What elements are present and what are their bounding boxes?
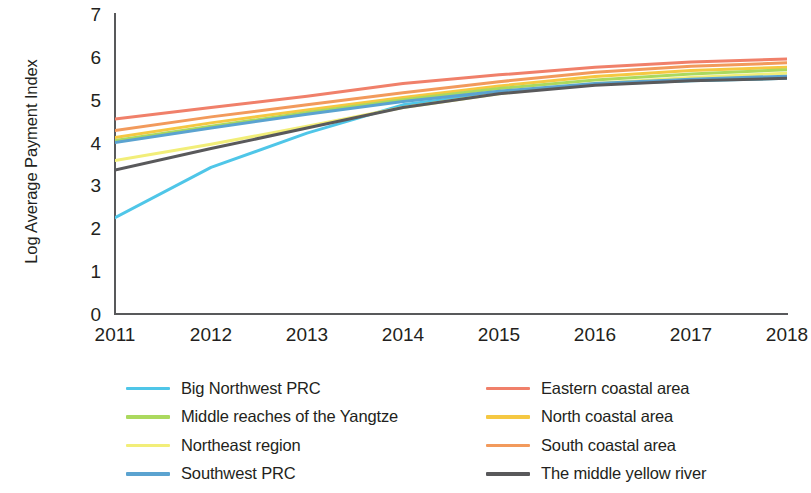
x-axis-tick-label: 2012 <box>166 325 256 344</box>
legend-item-label: North coastal area <box>541 407 673 426</box>
x-axis-tick-label: 2018 <box>742 325 811 344</box>
chart-legend: Big Northwest PRCMiddle reaches of the Y… <box>118 374 808 489</box>
legend-column-left: Big Northwest PRCMiddle reaches of the Y… <box>126 374 466 488</box>
legend-color-swatch <box>486 444 530 448</box>
legend-color-swatch <box>126 444 170 448</box>
x-axis-tick-label: 2015 <box>454 325 544 344</box>
legend-item[interactable]: South coastal area <box>486 431 811 460</box>
legend-item-label: The middle yellow river <box>541 464 706 483</box>
x-axis-tick-label: 2013 <box>262 325 352 344</box>
legend-item[interactable]: Eastern coastal area <box>486 374 811 403</box>
legend-color-swatch <box>126 415 170 419</box>
x-axis-tick-label: 2014 <box>358 325 448 344</box>
legend-color-swatch <box>126 387 170 391</box>
legend-item[interactable]: Big Northwest PRC <box>126 374 466 403</box>
legend-item-label: Middle reaches of the Yangtze <box>181 407 398 426</box>
legend-item-label: Northeast region <box>181 436 301 455</box>
legend-item-label: Southwest PRC <box>181 464 296 483</box>
legend-item-label: South coastal area <box>541 436 676 455</box>
legend-color-swatch <box>486 415 530 419</box>
x-axis-tick-label: 2016 <box>550 325 640 344</box>
legend-color-swatch <box>486 472 530 476</box>
x-axis-tick-label: 2017 <box>646 325 736 344</box>
x-axis-tick-label: 2011 <box>70 325 160 344</box>
legend-color-swatch <box>126 472 170 476</box>
legend-item[interactable]: North coastal area <box>486 403 811 432</box>
legend-item-label: Big Northwest PRC <box>181 379 321 398</box>
legend-item[interactable]: Southwest PRC <box>126 460 466 489</box>
legend-column-right: Eastern coastal areaNorth coastal areaSo… <box>486 374 811 488</box>
line-chart-figure: Log Average Payment Index 01234567 20112… <box>0 0 811 493</box>
legend-item[interactable]: Northeast region <box>126 431 466 460</box>
legend-item[interactable]: The middle yellow river <box>486 460 811 489</box>
legend-item[interactable]: Middle reaches of the Yangtze <box>126 403 466 432</box>
legend-item-label: Eastern coastal area <box>541 379 689 398</box>
legend-color-swatch <box>486 387 530 391</box>
